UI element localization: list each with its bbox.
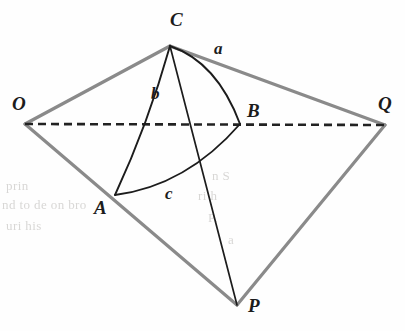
edge-C-P: [170, 46, 237, 305]
side-label-a: a: [214, 39, 223, 58]
side-label-c: c: [165, 184, 173, 203]
side-labels: a b c: [151, 39, 223, 203]
edge-P-Q: [237, 125, 385, 305]
arc-A-B: [115, 124, 240, 195]
quadrilateral-edges: [25, 46, 385, 305]
vertex-label-Q: Q: [378, 93, 392, 114]
edge-O-P: [25, 124, 237, 305]
vertex-label-C: C: [170, 9, 183, 30]
edge-C-Q: [170, 46, 385, 125]
arc-C-A: [115, 46, 170, 195]
side-label-b: b: [151, 84, 160, 103]
vertex-label-A: A: [93, 197, 107, 218]
diagram-canvas: O C Q P A B a b c: [0, 0, 405, 331]
vertex-label-B: B: [246, 100, 260, 121]
axis-O-Q-dashed: [25, 124, 385, 125]
geometry-figure: prin nd to de on bro uri his n S ri h P.…: [0, 0, 405, 331]
vertex-label-P: P: [247, 295, 260, 316]
vertex-label-O: O: [12, 93, 26, 114]
spherical-triangle-arcs: [115, 46, 240, 195]
